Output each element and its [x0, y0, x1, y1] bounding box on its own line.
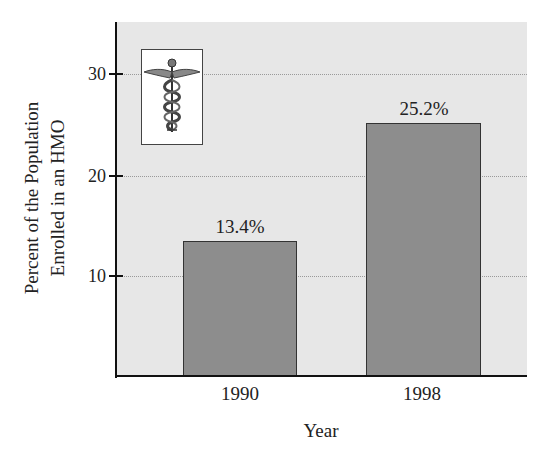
y-tick-label: 30: [70, 65, 106, 83]
bar-1990: [183, 241, 297, 376]
y-tick: [109, 175, 123, 177]
y-axis-title-line2: Enrolled in an HMO: [45, 68, 71, 328]
y-tick-label: 10: [70, 267, 106, 285]
bar-1998: [366, 123, 481, 376]
y-axis-title: Percent of the Population Enrolled in an…: [19, 68, 71, 328]
y-axis-title-line1: Percent of the Population: [19, 68, 45, 328]
x-tick-label: 1990: [180, 384, 300, 404]
y-tick: [109, 73, 123, 75]
y-axis: [115, 22, 117, 378]
x-tick-label: 1998: [362, 384, 482, 404]
x-axis-title: Year: [261, 420, 381, 442]
x-axis: [115, 375, 527, 377]
bar-value-label: 13.4%: [180, 217, 300, 237]
bar-value-label: 25.2%: [364, 99, 484, 119]
caduceus-icon: [141, 49, 203, 145]
y-tick-label: 20: [70, 167, 106, 185]
y-tick: [109, 275, 123, 277]
